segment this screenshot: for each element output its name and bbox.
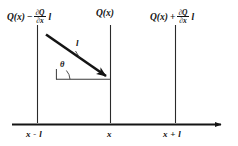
top-label-left-operator: − bbox=[26, 13, 32, 23]
axis-tick-label-left: x - l bbox=[26, 130, 42, 139]
angle-label: θ bbox=[60, 60, 64, 69]
top-label-left-numerator: ∂Q bbox=[34, 9, 45, 17]
top-label-left-function: Q(x) bbox=[7, 13, 25, 23]
top-label-right-denominator: ∂x bbox=[178, 17, 187, 25]
top-label-left-denominator: ∂x bbox=[35, 17, 44, 25]
top-label-center-function: Q(x) bbox=[96, 9, 114, 19]
angle-arc bbox=[66, 71, 70, 80]
axis-tick-label-right: x + l bbox=[163, 130, 181, 139]
top-label-left-fraction: ∂Q ∂x bbox=[34, 9, 45, 26]
top-label-right-operator: + bbox=[169, 13, 175, 23]
figure-canvas: Q(x) − ∂Q ∂x l Q(x) Q(x) + ∂Q ∂x l l θ x… bbox=[0, 0, 238, 146]
top-label-right: Q(x) + ∂Q ∂x l bbox=[150, 9, 194, 26]
top-label-right-fraction: ∂Q ∂x bbox=[177, 9, 188, 26]
top-label-right-length: l bbox=[192, 13, 195, 23]
top-label-right-function: Q(x) bbox=[150, 13, 168, 23]
top-label-center: Q(x) bbox=[96, 9, 114, 19]
top-label-left: Q(x) − ∂Q ∂x l bbox=[7, 9, 51, 26]
top-label-left-length: l bbox=[49, 13, 52, 23]
axis-tick-label-center: x bbox=[107, 130, 112, 139]
top-label-right-numerator: ∂Q bbox=[177, 9, 188, 17]
vector-length-label: l bbox=[76, 39, 79, 48]
